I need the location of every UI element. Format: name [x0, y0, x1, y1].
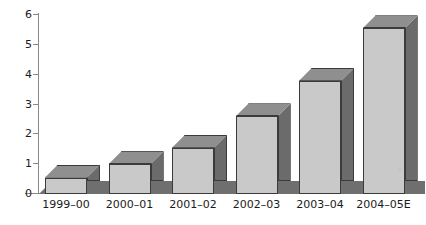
- x-label-2002–03: 2002–03: [224, 199, 290, 210]
- x-label-2000–01: 2000–01: [97, 199, 163, 210]
- bar-2000–01: [109, 151, 164, 194]
- bar-side-face: [341, 68, 354, 181]
- bar-front-face: [172, 148, 214, 194]
- x-label-2001–02: 2001–02: [160, 199, 226, 210]
- x-label-1999–00: 1999–00: [33, 199, 99, 210]
- bar-front-face: [45, 178, 87, 194]
- scan-speck: [399, 168, 401, 170]
- bar-side-face: [278, 103, 291, 181]
- bar-2004–05E: [363, 15, 418, 194]
- bars-layer: [0, 0, 426, 225]
- bar-2001–02: [172, 135, 227, 194]
- bar-front-face: [236, 116, 278, 194]
- bar-2003–04: [299, 68, 354, 194]
- bar-front-face: [109, 164, 151, 194]
- bar-chart: 0123456 1999–002000–012001–022002–032003…: [0, 0, 426, 225]
- bar-side-face: [405, 15, 418, 181]
- bar-1999–00: [45, 165, 100, 194]
- bar-front-face: [299, 81, 341, 194]
- bar-2002–03: [236, 103, 291, 194]
- x-label-2004–05E: 2004–05E: [351, 199, 417, 210]
- x-label-2003–04: 2003–04: [287, 199, 353, 210]
